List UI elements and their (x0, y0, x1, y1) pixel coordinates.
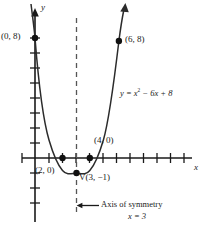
equation-rhs: − 6x + 8 (140, 88, 172, 98)
graph-canvas (0, 0, 204, 229)
point-2-0 (59, 155, 65, 161)
label-point-0-8: (0, 8) (1, 32, 21, 41)
label-point-6-8: (6, 8) (125, 35, 145, 44)
point-4-0 (87, 155, 93, 161)
parabola-figure: y x (0, 8) (6, 8) (2, 0) (4, 0) V(3, −1)… (0, 0, 204, 229)
curve-arrowhead-right (120, 3, 129, 12)
axis-symmetry-leader (77, 203, 99, 208)
x-axis (22, 153, 192, 163)
label-point-2-0: (2, 0) (35, 166, 55, 175)
y-axis-label: y (41, 3, 45, 12)
point-0-8 (32, 35, 38, 41)
x-axis-label: x (194, 163, 198, 172)
label-vertex: V(3, −1) (79, 173, 110, 182)
equation-lhs: y = x (120, 88, 138, 98)
equation-label: y = x2 − 6x + 8 (120, 88, 172, 97)
point-6-8 (116, 38, 122, 44)
axis-symmetry-value: x = 3 (128, 212, 146, 221)
label-point-4-0: (4, 0) (94, 136, 114, 145)
parabola-curve (31, 4, 124, 174)
axis-symmetry-caption: Axis of symmetry (101, 200, 162, 209)
